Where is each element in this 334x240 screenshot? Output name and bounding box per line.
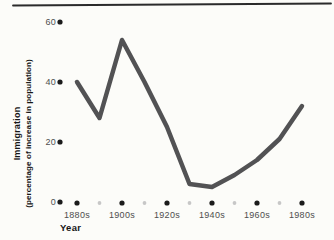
- x-axis-major-dot: [74, 200, 79, 205]
- top-border-rule: [13, 4, 331, 6]
- x-axis-minor-dot: [143, 201, 147, 205]
- x-axis-major-dot: [164, 200, 169, 205]
- y-tick-label: 20: [34, 137, 56, 147]
- immigration-line: [77, 40, 302, 187]
- y-axis-tick-dot: [57, 199, 62, 204]
- x-tick-label: 1940s: [190, 210, 234, 220]
- x-axis-minor-dot: [98, 201, 102, 205]
- y-axis-label: Immigration (percentage of increase in p…: [12, 39, 35, 229]
- y-tick-label: 60: [34, 17, 56, 27]
- x-tick-label: 1980s: [280, 210, 324, 220]
- x-tick-label: 1900s: [100, 210, 144, 220]
- y-axis-tick-dot: [57, 79, 62, 84]
- x-tick-label: 1880s: [55, 210, 99, 220]
- y-axis-label-line2: (percentage of increase in population): [23, 39, 34, 229]
- x-axis-minor-dot: [233, 201, 237, 205]
- x-axis-minor-dot: [188, 201, 192, 205]
- x-axis-major-dot: [119, 200, 124, 205]
- y-axis-tick-dot: [57, 19, 62, 24]
- x-tick-label: 1960s: [235, 210, 279, 220]
- x-axis-label: Year: [60, 222, 81, 233]
- x-axis-major-dot: [209, 200, 214, 205]
- immigration-chart-figure: 02040601880s1900s1920s1940s1960s1980s Im…: [0, 0, 334, 240]
- x-axis-minor-dot: [278, 201, 282, 205]
- x-tick-label: 1920s: [145, 210, 189, 220]
- y-tick-label: 0: [34, 197, 56, 207]
- x-axis-major-dot: [254, 200, 259, 205]
- y-tick-label: 40: [34, 77, 56, 87]
- y-axis-label-line1: Immigration: [12, 39, 23, 229]
- x-axis-major-dot: [299, 200, 304, 205]
- y-axis-tick-dot: [57, 139, 62, 144]
- immigration-line-layer: [77, 40, 302, 187]
